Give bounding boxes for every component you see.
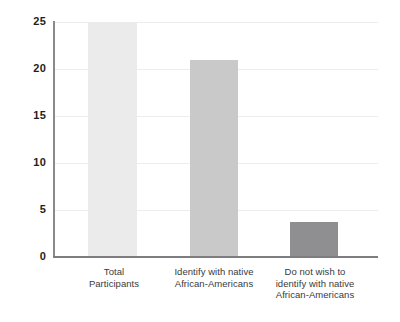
- x-axis-line: [53, 256, 378, 258]
- y-tick-label-5: 5: [16, 203, 46, 215]
- x-category-label-2: Do not wish to identify with native Afri…: [258, 266, 372, 301]
- y-tick-label-0: 0: [16, 250, 46, 262]
- x-category-label-2-line-1: identify with native: [258, 278, 372, 290]
- plot-area: [54, 22, 378, 257]
- y-tick-label-20: 20: [16, 62, 46, 74]
- bar-chart: 25 20 15 10 5 0 Total Participants Ident…: [0, 0, 400, 322]
- x-category-label-0-line-1: Participants: [58, 278, 170, 290]
- bar-do-not-wish-to-identify: [290, 222, 338, 257]
- x-category-label-1: Identify with native African-Americans: [157, 266, 271, 289]
- x-category-label-1-line-1: African-Americans: [157, 278, 271, 290]
- y-axis-tick-labels: 25 20 15 10 5 0: [14, 0, 46, 322]
- x-category-label-0-line-0: Total: [58, 266, 170, 278]
- y-axis-line: [53, 21, 55, 258]
- x-category-label-2-line-0: Do not wish to: [258, 266, 372, 278]
- bar-total-participants: [88, 22, 137, 257]
- y-tick-label-25: 25: [16, 15, 46, 27]
- y-tick-label-10: 10: [16, 156, 46, 168]
- y-tick-label-15: 15: [16, 109, 46, 121]
- x-category-label-0: Total Participants: [58, 266, 170, 289]
- x-category-label-2-line-2: African-Americans: [258, 289, 372, 301]
- bar-identify-native-african-americans: [190, 60, 238, 257]
- x-category-label-1-line-0: Identify with native: [157, 266, 271, 278]
